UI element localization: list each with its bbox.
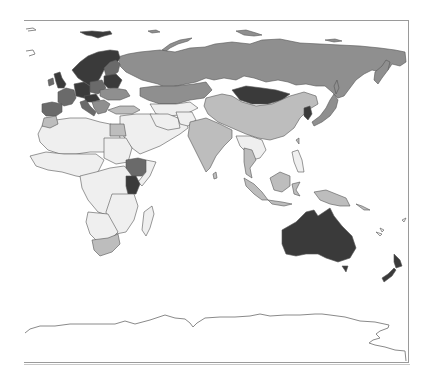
region-ireland: [48, 78, 54, 86]
region-severnaya-zemlya: [236, 30, 262, 36]
region-turkey: [108, 106, 140, 114]
region-java: [268, 200, 292, 206]
region-kenya: [126, 176, 140, 194]
region-iceland: [26, 50, 35, 56]
region-antarctica: [25, 314, 406, 361]
region-new-guinea: [314, 190, 350, 206]
region-philippines: [292, 150, 304, 172]
map-container: [0, 0, 433, 388]
region-korea: [304, 106, 312, 120]
region-iberia: [42, 102, 62, 116]
region-uk: [54, 72, 66, 88]
region-solomon: [356, 204, 370, 210]
choropleth-map: [0, 0, 433, 388]
region-australia: [282, 208, 356, 262]
region-sulawesi: [292, 182, 300, 196]
region-fiji: [402, 218, 406, 222]
region-egypt: [110, 124, 126, 136]
region-france: [58, 88, 76, 106]
region-tasmania: [342, 266, 348, 272]
region-new-siberian: [325, 39, 342, 42]
region-vanuatu: [380, 228, 384, 232]
region-borneo: [270, 172, 290, 192]
region-svalbard: [80, 31, 112, 38]
region-belarus: [104, 74, 122, 88]
region-new-zealand-south: [382, 268, 396, 282]
region-new-zealand-north: [394, 254, 402, 268]
region-new-caledonia: [376, 232, 382, 236]
region-taiwan: [296, 138, 299, 144]
region-franz-josef: [148, 30, 160, 33]
region-greenland-edge: [26, 28, 36, 31]
region-madagascar: [142, 206, 154, 236]
region-sumatra: [244, 178, 268, 200]
region-india: [188, 118, 232, 172]
region-ukraine: [100, 88, 130, 100]
region-sri-lanka: [213, 172, 217, 179]
